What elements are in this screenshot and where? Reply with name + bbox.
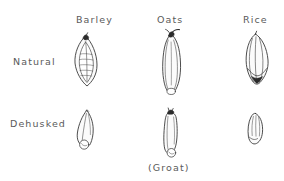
row-label-natural: Natural [13,56,56,67]
caption-groat: (Groat) [148,162,190,173]
column-header-barley: Barley [76,14,113,25]
specimen-rice-dehusked [243,110,269,148]
specimen-oats-dehusked-groat [158,107,186,161]
grain-comparison-figure: Barley Oats Rice Natural Dehusked (Groat… [0,0,284,181]
column-header-oats: Oats [157,14,183,25]
specimen-barley-dehusked [72,107,102,153]
groat-apex-tip [167,110,174,114]
specimen-rice-natural [241,30,275,88]
row-label-dehusked: Dehusked [10,118,66,129]
specimen-barley-natural [70,32,104,90]
specimen-oats-natural [156,28,188,98]
column-header-rice: Rice [243,14,268,25]
